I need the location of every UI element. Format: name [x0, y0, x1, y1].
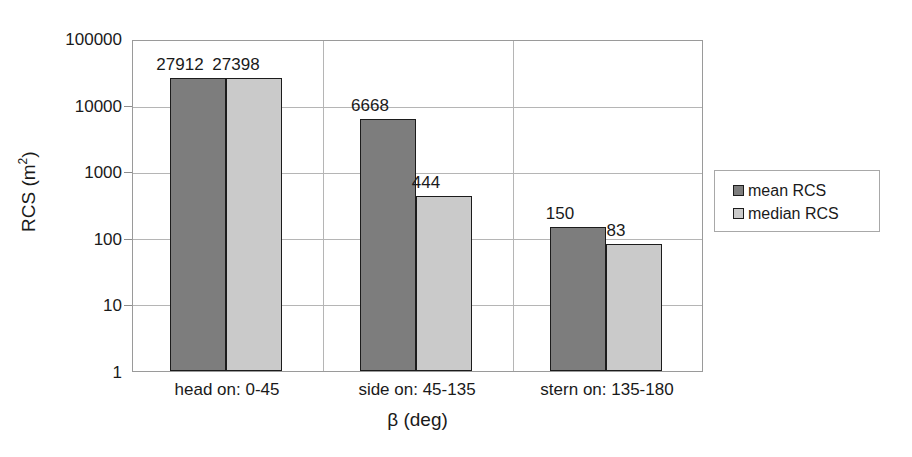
y-tick-label-100000: 100000	[65, 31, 122, 48]
y-axis-title: RCS (m2)	[16, 92, 39, 292]
bar-value-median-stern-on: 83	[575, 222, 657, 239]
legend-item-mean-rcs: mean RCS	[733, 179, 879, 202]
y-tick-label-1: 1	[113, 364, 122, 381]
plot-area	[132, 40, 703, 372]
y-tick-label-10000: 10000	[75, 98, 122, 115]
x-category-label-stern-on: stern on: 135-180	[512, 381, 702, 399]
legend-swatch-median-icon	[733, 208, 744, 219]
y-tick-label-100: 100	[94, 231, 122, 248]
bar-value-mean-stern-on: 150	[519, 205, 601, 222]
bar-median-head-on	[226, 78, 282, 371]
legend-label-mean-rcs: mean RCS	[748, 183, 826, 199]
bar-value-median-head-on: 27398	[195, 56, 277, 73]
bar-median-stern-on	[606, 244, 662, 371]
y-axis-title-base: RCS (m	[18, 164, 39, 232]
legend: mean RCS median RCS	[714, 170, 880, 232]
x-category-label-side-on: side on: 45-135	[322, 381, 512, 399]
bar-median-side-on	[416, 196, 472, 371]
bar-mean-head-on	[170, 78, 226, 371]
category-separator-2	[513, 41, 514, 371]
x-category-label-head-on: head on: 0-45	[132, 381, 322, 399]
legend-item-median-rcs: median RCS	[733, 202, 879, 225]
rcs-bar-chart: 100000 10000 1000 100 10 1 RCS (m2) 2791…	[0, 0, 912, 457]
y-tick-mark-10	[124, 305, 132, 306]
y-tick-mark-1000	[124, 172, 132, 173]
legend-label-median-rcs: median RCS	[748, 206, 839, 222]
y-tick-label-10: 10	[103, 297, 122, 314]
y-tick-label-1000: 1000	[84, 164, 122, 181]
category-separator-1	[323, 41, 324, 371]
y-tick-mark-10000	[124, 106, 132, 107]
x-axis-title: β (deg)	[132, 409, 703, 431]
bar-mean-stern-on	[550, 227, 606, 371]
bar-value-mean-side-on: 6668	[329, 97, 411, 114]
bar-mean-side-on	[360, 119, 416, 371]
y-tick-mark-100	[124, 239, 132, 240]
y-axis-title-exponent: 2	[16, 158, 30, 165]
y-axis-title-tail: )	[18, 151, 39, 157]
legend-swatch-mean-icon	[733, 185, 744, 196]
bar-value-median-side-on: 444	[385, 174, 467, 191]
